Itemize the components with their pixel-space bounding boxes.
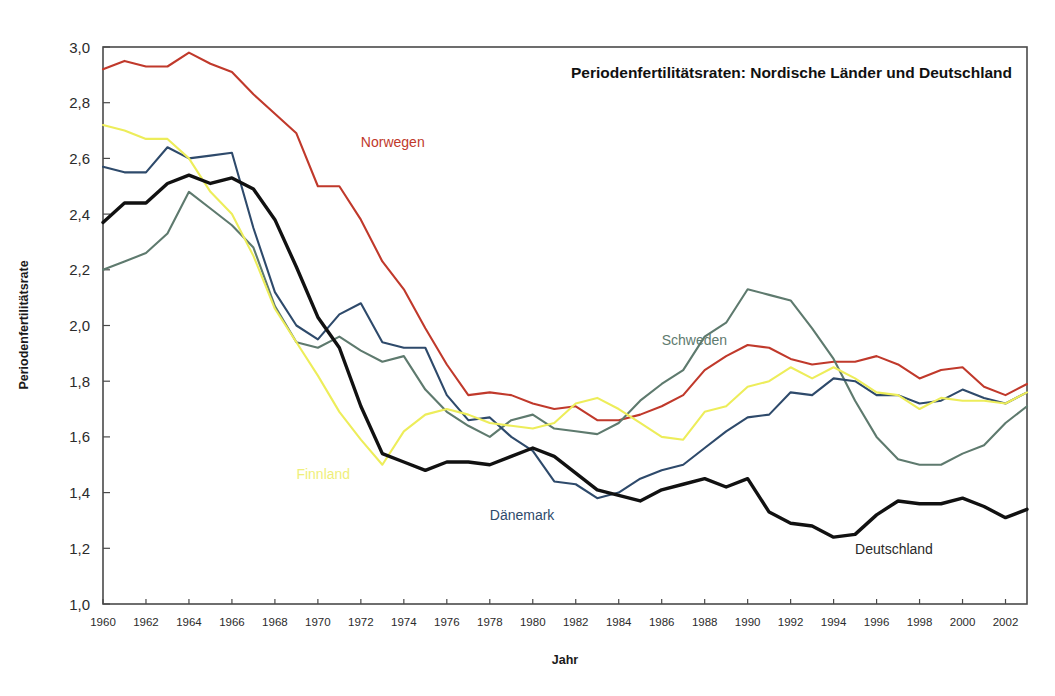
y-tick-label: 3,0 — [69, 39, 90, 56]
x-tick-label: 1966 — [219, 616, 245, 628]
x-tick-label: 1962 — [133, 616, 159, 628]
x-tick-label: 1972 — [348, 616, 374, 628]
x-tick-label: 1986 — [649, 616, 675, 628]
x-tick-label: 1982 — [563, 616, 589, 628]
x-axis-title: Jahr — [552, 653, 579, 667]
x-tick-label: 1994 — [821, 616, 847, 628]
series-line-finnland — [103, 125, 1027, 465]
fertility-rate-line-chart: Periodenfertilitätsraten: Nordische Länd… — [0, 0, 1055, 696]
series-line-dänemark — [103, 147, 1027, 498]
plot-frame — [103, 47, 1027, 604]
y-tick-label: 2,4 — [69, 206, 90, 223]
y-tick-label: 1,2 — [69, 540, 90, 557]
y-tick-label: 2,0 — [69, 317, 90, 334]
x-tick-label: 2002 — [993, 616, 1019, 628]
x-tick-label: 1968 — [262, 616, 288, 628]
x-tick-label: 1964 — [176, 616, 202, 628]
x-tick-label: 1974 — [391, 616, 417, 628]
x-tick-label: 1984 — [606, 616, 632, 628]
x-tick-label: 2000 — [950, 616, 976, 628]
y-tick-label: 1,0 — [69, 596, 90, 613]
x-tick-label: 1992 — [778, 616, 804, 628]
y-tick-label: 2,6 — [69, 150, 90, 167]
x-tick-label: 1970 — [305, 616, 331, 628]
x-tick-label: 1960 — [90, 616, 116, 628]
series-label-dänemark: Dänemark — [490, 507, 556, 523]
series-label-schweden: Schweden — [662, 332, 727, 348]
series-label-finnland: Finnland — [296, 466, 350, 482]
x-tick-label: 1976 — [434, 616, 460, 628]
y-tick-label: 1,6 — [69, 428, 90, 445]
series-lines — [103, 53, 1027, 538]
chart-title: Periodenfertilitätsraten: Nordische Länd… — [571, 64, 1012, 81]
x-tick-label: 1996 — [864, 616, 890, 628]
y-axis-title: Periodenfertilitätsrate — [17, 260, 31, 389]
x-tick-label: 1978 — [477, 616, 503, 628]
y-tick-label: 2,8 — [69, 94, 90, 111]
series-label-deutschland: Deutschland — [855, 541, 933, 557]
x-tick-label: 1988 — [692, 616, 718, 628]
x-tick-label: 1998 — [907, 616, 933, 628]
x-tick-label: 1990 — [735, 616, 761, 628]
y-tick-label: 1,4 — [69, 484, 90, 501]
y-tick-label: 1,8 — [69, 373, 90, 390]
x-tick-label: 1980 — [520, 616, 546, 628]
chart-figure: Periodenfertilitätsraten: Nordische Länd… — [0, 0, 1055, 696]
y-tick-label: 2,2 — [69, 261, 90, 278]
series-label-norwegen: Norwegen — [361, 134, 425, 150]
